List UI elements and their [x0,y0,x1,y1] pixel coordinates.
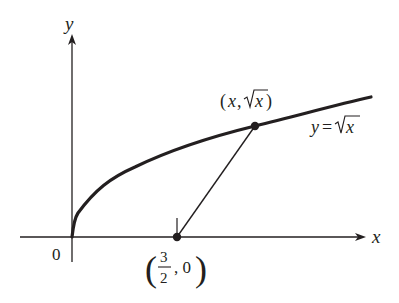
curve-equation-label: y = x [309,116,360,137]
point-three-halves-zero [173,233,181,241]
sqrt-graph-figure: y x 0 ( x , x ) y = x ( 3 2 , 0 ) [0,0,399,303]
fraction-denominator: 2 [160,270,168,286]
curve-point-label-x: x [227,91,236,111]
equation-lhs-y: y [309,117,319,137]
curve-point-label-radicand: x [254,91,263,111]
point-on-curve [251,122,259,130]
connecting-segment [177,126,255,237]
big-paren-close: ) [195,249,207,289]
big-paren-open: ( [145,249,157,289]
y-axis-label: y [63,13,74,34]
equation-radicand: x [345,117,354,137]
equation-equals: = [322,117,332,137]
curve-point-label-sep: , [237,91,242,111]
fixed-point-label-rest: , 0 [174,258,191,277]
origin-label: 0 [52,245,61,264]
x-axis-label: x [371,226,381,247]
diagram-canvas: y x 0 ( x , x ) y = x ( 3 2 , 0 ) [0,0,399,303]
curve-point-label: ( x , x ) [220,90,272,112]
curve-point-label-close: ) [266,91,272,112]
curve-point-label-open: ( [220,91,226,112]
fraction-numerator: 3 [160,249,168,265]
fixed-point-label: ( 3 2 , 0 ) [145,249,207,289]
